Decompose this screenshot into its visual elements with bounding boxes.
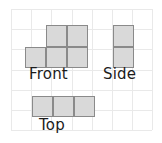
view-label-front: Front — [29, 67, 68, 82]
cube-cell — [32, 96, 53, 118]
grid-line-horizontal — [11, 130, 152, 131]
cube-cell — [46, 25, 67, 47]
cube-cell — [74, 96, 95, 118]
view-label-top: Top — [39, 118, 65, 133]
cube-cell — [53, 96, 74, 118]
grid-line-vertical — [152, 9, 153, 130]
view-label-side: Side — [103, 67, 136, 82]
orthographic-views-figure: FrontSideTop — [0, 0, 162, 143]
grid-line-horizontal — [11, 9, 152, 10]
cube-cell — [67, 47, 88, 69]
cube-cell — [113, 25, 134, 47]
cube-cell — [67, 25, 88, 47]
grid-line-horizontal — [11, 90, 152, 91]
